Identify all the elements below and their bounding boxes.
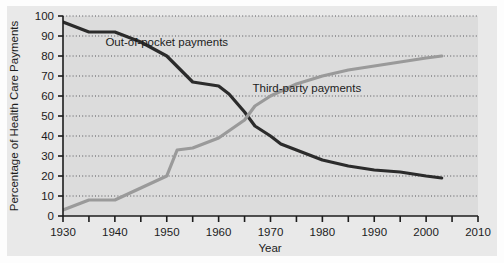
x-tick-label: 1970 — [258, 226, 284, 238]
y-tick-label: 0 — [48, 210, 54, 222]
x-tick-label: 1960 — [206, 226, 232, 238]
y-tick-label: 100 — [35, 10, 54, 22]
y-tick-label: 30 — [41, 150, 54, 162]
y-tick-label: 40 — [41, 130, 54, 142]
y-tick-label: 20 — [41, 170, 54, 182]
series-label: Out-of-pocket payments — [105, 36, 228, 48]
y-tick-label: 70 — [41, 70, 54, 82]
x-axis-tick-labels: 193019401950196019701980199020002010 — [50, 226, 491, 238]
x-tick-label: 1990 — [361, 226, 387, 238]
y-tick-label: 10 — [41, 190, 54, 202]
y-tick-label: 80 — [41, 50, 54, 62]
line-chart: 193019401950196019701980199020002010 010… — [0, 0, 504, 263]
series-label: Third-party payments — [252, 82, 361, 94]
x-tick-label: 2010 — [465, 226, 491, 238]
x-tick-label: 2000 — [413, 226, 439, 238]
x-tick-label: 1980 — [310, 226, 336, 238]
chart-figure: 193019401950196019701980199020002010 010… — [0, 0, 504, 263]
y-tick-label: 90 — [41, 30, 54, 42]
x-tick-label: 1950 — [154, 226, 180, 238]
x-axis-title: Year — [258, 242, 281, 254]
y-tick-label: 60 — [41, 90, 54, 102]
x-tick-label: 1940 — [102, 226, 128, 238]
x-tick-label: 1930 — [50, 226, 76, 238]
x-axis-ticks — [63, 216, 478, 222]
y-axis-tick-labels: 0102030405060708090100 — [35, 10, 54, 222]
y-axis-title: Percentage of Health Care Payments — [8, 21, 20, 212]
y-tick-label: 50 — [41, 110, 54, 122]
